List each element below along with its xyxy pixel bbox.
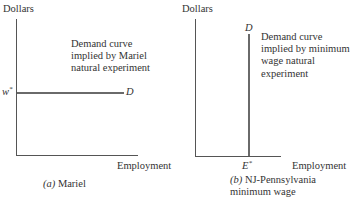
panel-a-wage-tick-label: w* (2, 86, 13, 98)
panel-a-y-axis-label: Dollars (3, 3, 34, 15)
annotation-line: Demand curve (261, 31, 350, 43)
annotation-line: Demand curve (71, 38, 150, 50)
caption-text: Mariel (58, 178, 86, 189)
panel-a-x-axis-label: Employment (117, 160, 171, 172)
annotation-line: implied by Mariel (71, 50, 150, 62)
panel-a-demand-curve-label: D (126, 86, 134, 98)
panel-b-x-axis (195, 156, 281, 157)
star-superscript: * (248, 159, 252, 167)
panel-b-y-axis (195, 19, 196, 157)
caption-label: (b) (230, 174, 242, 185)
panel-b-employment-tick-label: E* (242, 160, 252, 172)
panel-b-caption: (b) NJ-Pennsylvania minimum wage (230, 174, 316, 198)
panel-b-annotation: Demand curve implied by minimum wage nat… (261, 31, 350, 80)
panel-a-demand-curve-horizontal (17, 92, 124, 94)
panel-b-demand-curve-vertical (248, 34, 250, 156)
annotation-line: experiment (261, 68, 350, 80)
annotation-line: natural experiment (71, 62, 150, 74)
annotation-line: implied by minimum (261, 43, 350, 55)
panel-a-y-axis (16, 19, 17, 156)
panel-b-y-axis-label: Dollars (182, 3, 213, 15)
annotation-line: wage natural (261, 55, 350, 67)
panel-a-annotation: Demand curve implied by Mariel natural e… (71, 38, 150, 75)
caption-label: (a) (43, 178, 55, 189)
panel-a-caption: (a) Mariel (43, 178, 86, 190)
panel-b-x-axis-label: Employment (292, 160, 346, 172)
caption-text-line1: NJ-Pennsylvania (245, 174, 316, 185)
panel-b-demand-curve-label: D (245, 22, 253, 34)
wage-symbol: w (2, 86, 9, 97)
panel-a-x-axis (16, 155, 138, 156)
caption-text-line2: minimum wage (230, 186, 316, 198)
star-superscript: * (9, 85, 13, 93)
